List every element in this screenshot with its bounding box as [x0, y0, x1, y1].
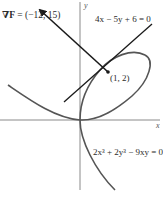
y-axis-label: y [84, 2, 88, 10]
nabla-f-symbol: ∇F [2, 10, 15, 20]
x-axis-label: x [156, 122, 160, 130]
folium-gradient-diagram: ∇F = (−12, 15) 4x − 5y + 6 = 0 (1, 2) 2x… [0, 0, 163, 198]
diagram-canvas [0, 0, 163, 198]
gradient-value: = (−12, 15) [15, 10, 61, 20]
tangent-line-label: 4x − 5y + 6 = 0 [95, 15, 151, 24]
gradient-label: ∇F = (−12, 15) [2, 11, 61, 21]
curve-equation-label: 2x³ + 2y³ − 9xy = 0 [93, 148, 163, 157]
point-label: (1, 2) [110, 74, 130, 83]
